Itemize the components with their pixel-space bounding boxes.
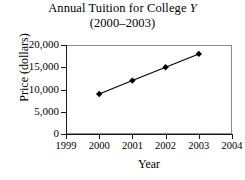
x-axis-tick	[232, 135, 233, 139]
y-axis-tick-label: 10,000	[0, 84, 59, 95]
x-axis-tick	[199, 135, 200, 139]
x-axis-tick	[66, 135, 67, 139]
x-axis-tick-label: 2004	[212, 140, 245, 151]
x-axis-line	[66, 134, 233, 135]
x-axis-label: Year	[66, 157, 232, 172]
x-axis-tick	[132, 135, 133, 139]
chart-title-college-label: Y	[190, 1, 197, 15]
y-axis-tick-label: 0	[0, 128, 59, 139]
y-axis-tick-label: 5,000	[0, 106, 59, 117]
x-axis-tick	[99, 135, 100, 139]
x-axis-tick	[166, 135, 167, 139]
chart-title-text: Annual Tuition for College	[48, 1, 190, 15]
y-axis-tick-label: 20,000	[0, 39, 59, 50]
data-point-marker	[96, 91, 102, 97]
y-axis-tick-label: 15,000	[0, 61, 59, 72]
data-point-marker	[196, 51, 202, 57]
plot-series-svg	[66, 45, 232, 134]
page-title: Annual Tuition for College Y	[0, 1, 245, 16]
chart-subtitle: (2000–2003)	[0, 16, 245, 31]
data-point-marker	[162, 64, 168, 70]
series-line	[99, 54, 199, 94]
tuition-line-chart: Annual Tuition for College Y (2000–2003)…	[0, 0, 245, 180]
chart-title-block: Annual Tuition for College Y (2000–2003)	[0, 1, 245, 31]
data-point-marker	[129, 77, 135, 83]
